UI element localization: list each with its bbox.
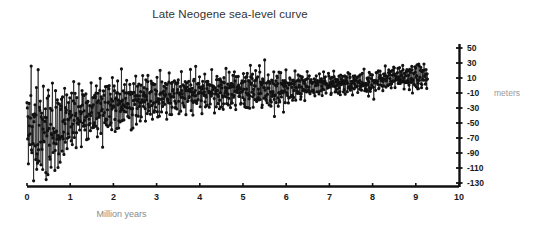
x-tick-label: 4: [186, 192, 214, 202]
y-tick-label: -130: [467, 178, 484, 188]
y-tick-label: -70: [467, 133, 479, 143]
y-tick-label: -90: [467, 148, 479, 158]
x-tick-label: 5: [229, 192, 257, 202]
y-tick-label: 30: [467, 58, 476, 68]
y-tick-label: -10: [467, 88, 479, 98]
x-tick-label: 7: [315, 192, 343, 202]
x-tick-label: 2: [99, 192, 127, 202]
y-axis-label: meters: [494, 88, 520, 98]
y-tick-label: -110: [467, 163, 484, 173]
chart-figure: Late Neogene sea-level curve 503010-10-3…: [0, 0, 539, 242]
x-tick-label: 8: [359, 192, 387, 202]
y-tick-label: 50: [467, 43, 476, 53]
x-tick-label: 10: [445, 192, 473, 202]
x-tick-label: 1: [56, 192, 84, 202]
y-tick-label: -50: [467, 118, 479, 128]
data-series-sea-level: [25, 58, 429, 182]
series-markers: [25, 58, 429, 182]
sea-level-plot: [0, 0, 539, 242]
y-tick-label: 10: [467, 73, 476, 83]
x-tick-label: 6: [272, 192, 300, 202]
x-axis-label: Million years: [0, 209, 243, 219]
x-tick-label: 3: [143, 192, 171, 202]
x-tick-label: 0: [13, 192, 41, 202]
x-tick-label: 9: [402, 192, 430, 202]
y-tick-label: -30: [467, 103, 479, 113]
